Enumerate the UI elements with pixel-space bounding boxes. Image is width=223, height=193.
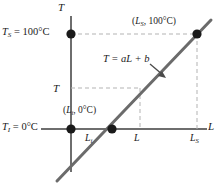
x-tick-l-symbol: L: [134, 132, 140, 143]
t-steam-symbol: T: [2, 26, 8, 37]
marker-steam-point: [192, 29, 201, 38]
ice-point-rest: , 0°C): [73, 105, 96, 115]
line-equation-label: T = aL + b: [103, 54, 149, 65]
t-steam-label: TS = 100°C: [2, 27, 50, 38]
t-steam-subscript: S: [8, 31, 12, 39]
marker-t-ice-axis: [66, 124, 75, 133]
x-tick-label-l: L: [134, 133, 140, 143]
t-ice-value: = 0°C: [10, 121, 38, 132]
x-tick-ls-subscript: S: [196, 137, 199, 144]
steam-point-label: (LS, 100°C): [132, 17, 176, 27]
x-tick-ls-symbol: L: [190, 132, 196, 143]
t-ice-subscript: I: [8, 126, 10, 134]
x-tick-label-li: Li: [85, 133, 92, 143]
marker-ice-point: [107, 124, 116, 133]
x-axis-label: L: [208, 121, 214, 132]
x-tick-li-subscript: i: [91, 137, 93, 144]
y-axis-label: T: [58, 2, 64, 13]
t-intermediate-label: T: [53, 83, 59, 94]
ice-point-label: (Li, 0°C): [63, 106, 96, 116]
x-tick-label-ls: LS: [190, 133, 199, 143]
t-ice-symbol: T: [2, 121, 8, 132]
thermometer-calibration-figure: T L TS = 100°C T TI = 0°C (LS, 100°C) (L…: [0, 0, 223, 193]
steam-point-rest: , 100°C): [144, 16, 176, 26]
steam-point-subscript: S: [140, 20, 143, 27]
t-steam-value: = 100°C: [11, 26, 49, 37]
calibration-line: [57, 20, 211, 181]
t-ice-label: TI = 0°C: [2, 122, 38, 133]
marker-t-steam-axis: [66, 29, 75, 38]
x-tick-li-symbol: L: [85, 132, 91, 143]
ice-point-subscript: i: [71, 109, 73, 116]
